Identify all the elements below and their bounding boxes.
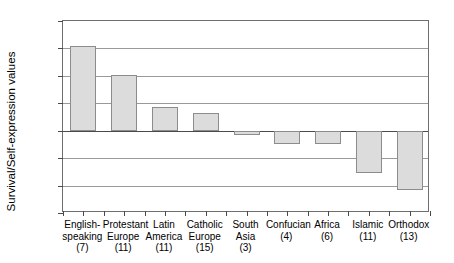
x-label-line: (13) xyxy=(388,231,429,243)
x-label-line: Europe xyxy=(103,231,144,243)
x-tick xyxy=(308,211,309,216)
x-tick xyxy=(226,211,227,216)
x-tick-center xyxy=(83,211,84,216)
x-tick-center xyxy=(287,211,288,216)
x-tick xyxy=(267,211,268,216)
x-axis-category-label: ProtestantEurope(11) xyxy=(103,219,144,254)
y-tick xyxy=(58,131,63,132)
x-tick xyxy=(185,211,186,216)
x-label-line: America xyxy=(144,231,185,243)
plot-area: 21.510.50−0.5−1−1.5 xyxy=(62,20,429,212)
x-label-line: (11) xyxy=(144,242,185,254)
x-label-line: (15) xyxy=(184,242,225,254)
x-axis-category-label: Islamic(11) xyxy=(347,219,388,242)
x-label-line: Protestant xyxy=(103,219,144,231)
x-tick-center xyxy=(206,211,207,216)
y-axis-title: Survival/Self-expression values xyxy=(0,0,22,263)
x-label-line: South xyxy=(225,219,266,231)
x-label-line: (7) xyxy=(62,242,103,254)
x-tick xyxy=(145,211,146,216)
x-label-line: (11) xyxy=(103,242,144,254)
y-tick xyxy=(58,186,63,187)
x-axis-category-label: LatinAmerica(11) xyxy=(144,219,185,254)
y-tick xyxy=(58,103,63,104)
x-axis-labels: English-speaking(7)ProtestantEurope(11)L… xyxy=(62,219,429,263)
x-axis-category-label: Confucian(4) xyxy=(266,219,307,242)
x-axis-category-label: Orthodox(13) xyxy=(388,219,429,242)
x-label-line: (4) xyxy=(266,231,307,243)
x-label-line: Asia xyxy=(225,231,266,243)
x-tick xyxy=(104,211,105,216)
x-tick xyxy=(430,211,431,216)
y-tick xyxy=(58,158,63,159)
x-label-line: English- xyxy=(62,219,103,231)
survival-self-expression-bar-chart: Survival/Self-expression values 21.510.5… xyxy=(0,0,454,263)
x-label-line: Europe xyxy=(184,231,225,243)
x-tick-center xyxy=(369,211,370,216)
x-tick-center xyxy=(124,211,125,216)
x-axis-category-label: English-speaking(7) xyxy=(62,219,103,254)
x-axis-category-label: CatholicEurope(15) xyxy=(184,219,225,254)
y-tick xyxy=(58,76,63,77)
x-label-line: Latin xyxy=(144,219,185,231)
x-label-line: Catholic xyxy=(184,219,225,231)
x-tick xyxy=(348,211,349,216)
x-axis-category-label: SouthAsia(3) xyxy=(225,219,266,254)
x-label-line: (11) xyxy=(347,231,388,243)
x-label-line: Confucian xyxy=(266,219,307,231)
x-tick xyxy=(63,211,64,216)
x-tick-center xyxy=(328,211,329,216)
x-tick-center xyxy=(165,211,166,216)
x-label-line: speaking xyxy=(62,231,103,243)
x-label-line: (3) xyxy=(225,242,266,254)
y-tick xyxy=(58,21,63,22)
x-tick-center xyxy=(410,211,411,216)
x-axis-category-label: Africa(6) xyxy=(307,219,348,242)
x-label-line: Islamic xyxy=(347,219,388,231)
y-tick xyxy=(58,48,63,49)
y-tick xyxy=(58,213,63,214)
x-axis-ticks xyxy=(63,21,428,211)
x-label-line: Orthodox xyxy=(388,219,429,231)
x-label-line: Africa xyxy=(307,219,348,231)
x-tick xyxy=(389,211,390,216)
x-label-line: (6) xyxy=(307,231,348,243)
x-tick-center xyxy=(247,211,248,216)
